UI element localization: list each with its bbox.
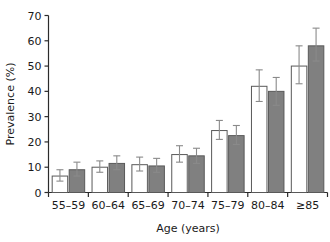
y-tick-label: 40 xyxy=(28,85,42,98)
bar-series-1-6 xyxy=(291,66,307,192)
y-tick-label: 60 xyxy=(28,35,42,48)
chart-canvas: 010203040506070 55–5960–6465–6970–7475–7… xyxy=(0,0,330,242)
x-category-label-5: 80–84 xyxy=(251,199,285,212)
x-category-label-6: ≥85 xyxy=(296,199,319,212)
bar-series-2-6 xyxy=(308,46,324,193)
x-category-label-3: 70–74 xyxy=(171,199,205,212)
y-tick-label: 10 xyxy=(28,161,42,174)
y-tick-label: 0 xyxy=(35,187,42,200)
x-axis-category-labels: 55–5960–6465–6970–7475–7980–84≥85 xyxy=(52,199,319,212)
x-category-label-0: 55–59 xyxy=(52,199,86,212)
bar-series-2-5 xyxy=(268,91,284,192)
x-category-label-4: 75–79 xyxy=(211,199,245,212)
y-tick-label: 70 xyxy=(28,10,42,23)
y-tick-label: 50 xyxy=(28,60,42,73)
y-tick-label: 30 xyxy=(28,111,42,124)
y-axis-title: Prevalence (%) xyxy=(4,63,17,146)
x-category-label-1: 60–64 xyxy=(92,199,126,212)
x-axis-title: Age (years) xyxy=(156,222,220,235)
bar-chart-figure: 010203040506070 55–5960–6465–6970–7475–7… xyxy=(0,0,330,242)
x-category-label-2: 65–69 xyxy=(131,199,165,212)
bar-series-1-5 xyxy=(251,86,267,192)
y-tick-label: 20 xyxy=(28,136,42,149)
